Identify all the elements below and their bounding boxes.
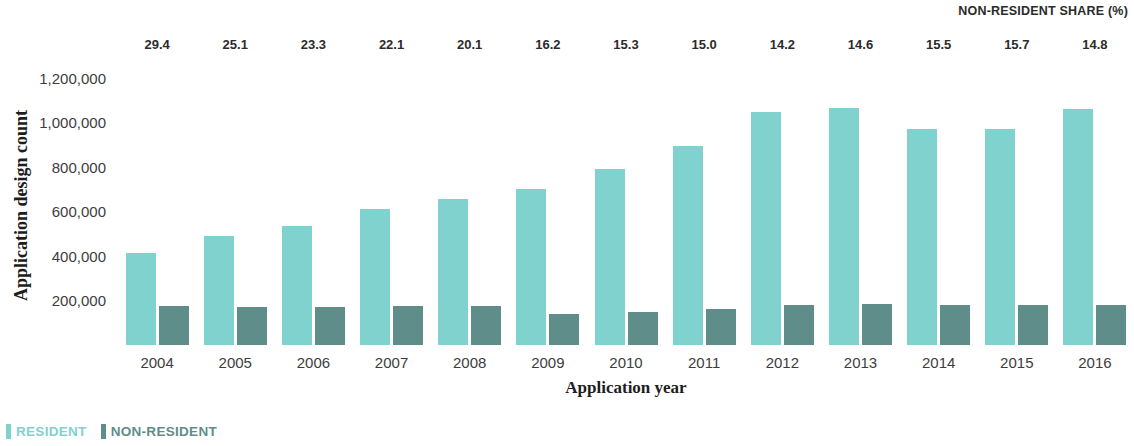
share-value: 14.8 xyxy=(1056,36,1134,54)
x-axis-title: Application year xyxy=(118,378,1134,398)
bar-group xyxy=(587,62,665,345)
x-axis-tick-label: 2012 xyxy=(743,352,821,374)
non-resident-share-row: 29.425.123.322.120.116.215.315.014.214.6… xyxy=(118,36,1134,54)
x-axis-tick-label: 2006 xyxy=(274,352,352,374)
bar-non-resident[interactable] xyxy=(784,305,814,345)
bar-non-resident[interactable] xyxy=(549,314,579,345)
x-axis-tick-label: 2009 xyxy=(509,352,587,374)
bar-resident[interactable] xyxy=(126,253,156,345)
x-axis-tick-label: 2011 xyxy=(665,352,743,374)
bar-resident[interactable] xyxy=(204,236,234,345)
bar-resident[interactable] xyxy=(907,129,937,345)
x-axis-tick-label: 2007 xyxy=(352,352,430,374)
share-value: 15.0 xyxy=(665,36,743,54)
bar-non-resident[interactable] xyxy=(1096,305,1126,345)
y-axis-tick-label: 1,200,000 xyxy=(39,69,106,86)
share-value: 16.2 xyxy=(509,36,587,54)
legend-swatch-icon xyxy=(6,424,11,439)
x-axis-tick-label: 2015 xyxy=(978,352,1056,374)
bar-group xyxy=(900,62,978,345)
bar-group xyxy=(118,62,196,345)
bar-group xyxy=(274,62,352,345)
bar-resident[interactable] xyxy=(595,169,625,345)
bar-resident[interactable] xyxy=(673,146,703,345)
x-axis-tick-label: 2016 xyxy=(1056,352,1134,374)
bar-non-resident[interactable] xyxy=(315,307,345,345)
x-axis-tick-labels: 2004200520062007200820092010201120122013… xyxy=(118,352,1134,374)
bar-resident[interactable] xyxy=(829,108,859,345)
share-value: 14.6 xyxy=(821,36,899,54)
bar-group xyxy=(1056,62,1134,345)
share-value: 25.1 xyxy=(196,36,274,54)
share-value: 20.1 xyxy=(431,36,509,54)
share-value: 15.5 xyxy=(900,36,978,54)
x-axis-tick-label: 2004 xyxy=(118,352,196,374)
bar-non-resident[interactable] xyxy=(940,305,970,345)
y-axis-tick-labels: 200,000400,000600,000800,0001,000,0001,2… xyxy=(0,62,112,345)
bar-non-resident[interactable] xyxy=(1018,305,1048,345)
x-axis-tick-label: 2005 xyxy=(196,352,274,374)
bar-resident[interactable] xyxy=(751,112,781,345)
bar-resident[interactable] xyxy=(1063,109,1093,345)
share-value: 14.2 xyxy=(743,36,821,54)
bar-resident[interactable] xyxy=(360,209,390,345)
bar-resident[interactable] xyxy=(985,129,1015,345)
share-value: 23.3 xyxy=(274,36,352,54)
bar-non-resident[interactable] xyxy=(471,306,501,345)
bar-non-resident[interactable] xyxy=(237,307,267,345)
bar-group xyxy=(743,62,821,345)
share-value: 29.4 xyxy=(118,36,196,54)
y-axis-tick-label: 400,000 xyxy=(52,247,106,264)
y-axis-tick-label: 200,000 xyxy=(52,292,106,309)
legend-label: NON-RESIDENT xyxy=(111,424,217,439)
x-axis-tick-label: 2013 xyxy=(821,352,899,374)
bar-resident[interactable] xyxy=(516,189,546,345)
bar-resident[interactable] xyxy=(282,226,312,345)
bar-group xyxy=(196,62,274,345)
bar-group xyxy=(821,62,899,345)
legend-label: RESIDENT xyxy=(16,424,87,439)
bar-group xyxy=(978,62,1056,345)
y-axis-tick-label: 800,000 xyxy=(52,158,106,175)
bar-non-resident[interactable] xyxy=(862,304,892,345)
bar-group xyxy=(352,62,430,345)
share-value: 15.7 xyxy=(978,36,1056,54)
chart-legend: RESIDENTNON-RESIDENT xyxy=(6,424,217,439)
bar-group xyxy=(431,62,509,345)
bar-non-resident[interactable] xyxy=(706,309,736,345)
bar-non-resident[interactable] xyxy=(628,312,658,345)
bar-resident[interactable] xyxy=(438,199,468,345)
bar-non-resident[interactable] xyxy=(159,306,189,345)
legend-swatch-icon xyxy=(101,424,106,439)
x-axis-tick-label: 2008 xyxy=(431,352,509,374)
share-value: 22.1 xyxy=(352,36,430,54)
bar-groups xyxy=(118,62,1134,345)
x-axis-tick-label: 2010 xyxy=(587,352,665,374)
plot-area xyxy=(118,62,1134,345)
bar-group xyxy=(665,62,743,345)
y-axis-tick-label: 600,000 xyxy=(52,203,106,220)
bar-non-resident[interactable] xyxy=(393,306,423,345)
bar-group xyxy=(509,62,587,345)
legend-item[interactable]: NON-RESIDENT xyxy=(101,424,217,439)
y-axis-tick-label: 1,000,000 xyxy=(39,114,106,131)
x-axis-tick-label: 2014 xyxy=(900,352,978,374)
share-value: 15.3 xyxy=(587,36,665,54)
legend-item[interactable]: RESIDENT xyxy=(6,424,87,439)
non-resident-share-header: NON-RESIDENT SHARE (%) xyxy=(958,4,1128,18)
